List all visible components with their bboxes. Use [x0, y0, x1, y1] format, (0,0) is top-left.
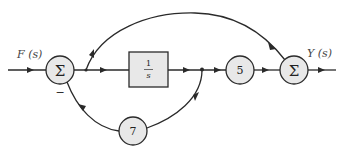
input-wire: [8, 67, 46, 73]
arrow-icon: [89, 49, 94, 58]
arrow-icon: [78, 104, 86, 111]
block-diagram: F (s) Σ − 1 s 7: [0, 0, 346, 153]
feedforward-arc: [86, 13, 285, 70]
summing-junction-1: Σ: [46, 56, 74, 84]
integrator-denominator: s: [146, 71, 150, 80]
arrow-icon: [100, 67, 107, 73]
gain5-to-sum2-wire: [254, 67, 280, 73]
arrow-icon: [262, 67, 269, 73]
output-wire: [308, 67, 336, 73]
arrow-icon: [27, 67, 34, 73]
arrow-icon: [318, 67, 325, 73]
sum1-to-integrator-wire: [74, 67, 129, 73]
integrator-block: 1 s: [129, 52, 168, 87]
integrator-to-gain5-wire: [168, 67, 226, 73]
arrow-icon: [268, 42, 276, 50]
gain-forward-value: 5: [237, 64, 244, 77]
output-label: Y (s): [307, 47, 332, 60]
sigma-symbol: Σ: [55, 62, 66, 80]
arrow-icon: [193, 92, 199, 101]
summing-junction-2: Σ: [280, 56, 308, 84]
sigma-symbol: Σ: [289, 62, 300, 80]
minus-sign: −: [55, 86, 64, 99]
arrow-icon: [214, 67, 221, 73]
gain-block-feedback: 7: [119, 117, 147, 145]
arrow-icon: [183, 67, 190, 73]
gain-feedback-value: 7: [130, 125, 137, 138]
input-label: F (s): [16, 48, 42, 61]
gain-block-forward: 5: [226, 56, 254, 84]
integrator-numerator: 1: [146, 59, 151, 68]
